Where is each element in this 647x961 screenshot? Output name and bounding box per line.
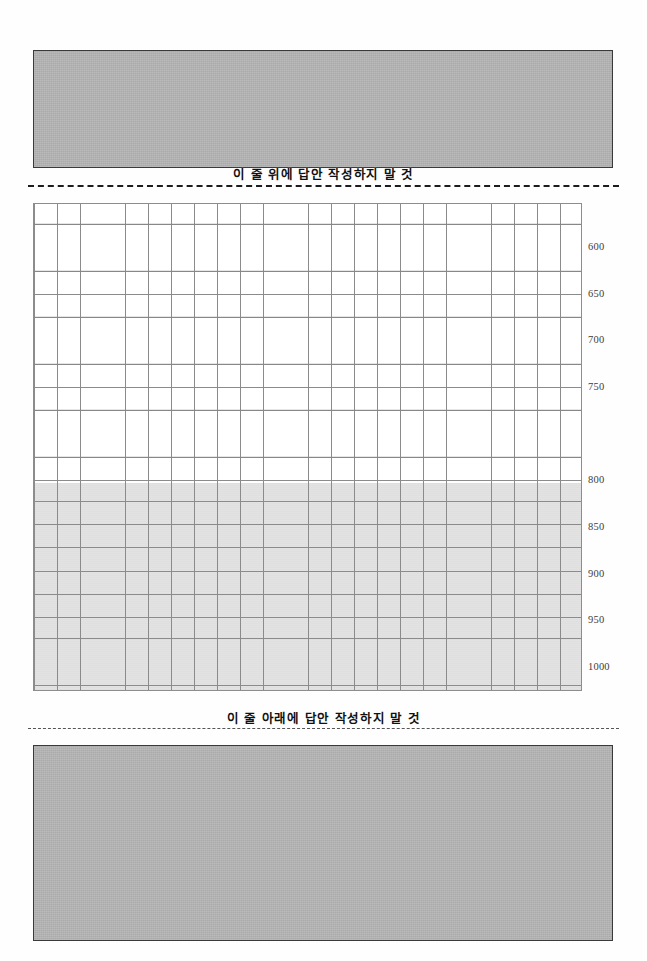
bottom-boundary-dashed-rule	[28, 728, 619, 729]
answer-writing-grid[interactable]	[33, 203, 582, 691]
count-tick-750: 750	[588, 382, 604, 393]
exam-answer-sheet-page: 이 줄 위에 답안 작성하지 말 것 600 650 700 750 800 8…	[0, 0, 647, 961]
bottom-redacted-block	[33, 745, 613, 941]
grid-overflow-shaded-region	[34, 483, 581, 690]
top-boundary-dashed-rule	[28, 185, 619, 187]
count-tick-1000: 1000	[588, 662, 610, 673]
count-tick-950: 950	[588, 615, 604, 626]
count-tick-700: 700	[588, 335, 604, 346]
count-tick-800: 800	[588, 475, 604, 486]
count-tick-600: 600	[588, 242, 604, 253]
top-redacted-block	[33, 50, 613, 168]
count-tick-900: 900	[588, 569, 604, 580]
top-boundary-caption: 이 줄 위에 답안 작성하지 말 것	[0, 164, 647, 183]
bottom-boundary-caption: 이 줄 아래에 답안 작성하지 말 것	[0, 708, 647, 727]
count-tick-850: 850	[588, 522, 604, 533]
character-count-ruler: 600 650 700 750 800 850 900 950 1000	[588, 203, 644, 695]
count-tick-650: 650	[588, 289, 604, 300]
grid-shaded-cell-lines	[34, 483, 581, 690]
